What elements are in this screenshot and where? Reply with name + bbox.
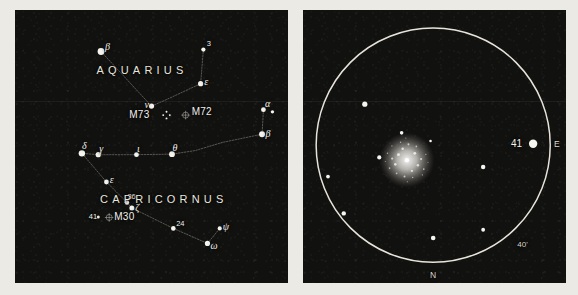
star-label-star-3-aquarii: 3: [207, 40, 211, 48]
asterism-line-aquarius-beta-nu: [101, 51, 152, 106]
field-star: [431, 236, 436, 241]
asterism-line-capricornus-alpha-beta: [262, 110, 263, 135]
star-label-epsilon-aquarii: ε: [204, 77, 208, 87]
star-label-gamma-capricorni: γ: [99, 144, 103, 154]
finder-chart-graphics: [15, 10, 288, 283]
field-star: [400, 131, 404, 135]
field-star: [326, 175, 330, 179]
star-label-alpha-capricorni: α: [265, 99, 270, 109]
constellation-name-capricornus: CAPRICORNUS: [100, 194, 228, 205]
north-marker: N: [430, 271, 436, 280]
star-beta-aquarii: [98, 48, 105, 55]
star-delta-capricorni: [79, 150, 85, 156]
dso-label-m30: M30: [114, 212, 134, 222]
telescopic-field-panel: 41EN40': [303, 10, 566, 283]
globular-cluster-icon-m72: [181, 111, 190, 120]
star-nu-aquarii: [149, 103, 154, 108]
figure-plate: β3εναβδγιθε36ζ24ψω41M73M72M30AQUARIUSCAP…: [0, 0, 578, 295]
dso-label-m73: M73: [129, 110, 149, 120]
star-label-star-24-capricorni: 24: [176, 220, 184, 228]
bright-star-41: [529, 140, 537, 148]
star-label-beta-aquarii: β: [105, 42, 110, 52]
star-label-psi-capricorni: ψ: [223, 222, 229, 232]
star-epsilon-aquarii: [198, 81, 203, 86]
star-alpha2-capricorni: [271, 110, 274, 113]
star-psi-capricorni: [218, 226, 222, 230]
asterism-line-capricornus-beta-theta: [172, 134, 262, 154]
field-star: [429, 140, 432, 143]
star-beta-capricorni: [259, 131, 265, 137]
asterism-line-capricornus-theta-delta: [82, 153, 172, 154]
constellation-name-aquarius: AQUARIUS: [96, 65, 187, 76]
star-label-star-41-capricorni: 41: [89, 213, 97, 221]
asterism-line-capricornus-zeta-omega: [132, 208, 208, 243]
globular-cluster-m30: [379, 133, 434, 188]
field-star: [342, 211, 346, 215]
finder-chart-panel: β3εναβδγιθε36ζ24ψω41M73M72M30AQUARIUSCAP…: [15, 10, 288, 283]
asterism-line-aquarius-3-epsilon: [201, 50, 204, 84]
star-label-omega-capricorni: ω: [210, 241, 217, 251]
asterism-line-aquarius-epsilon-nu: [152, 84, 201, 106]
star-star-41-capricorni: [97, 215, 100, 218]
bright-star-label-41: 41: [511, 139, 522, 149]
field-star: [481, 165, 485, 169]
dso-label-m72: M72: [192, 107, 212, 117]
star-epsilon-capricorni: [104, 180, 109, 185]
star-star-24-capricorni: [171, 226, 176, 231]
field-star: [481, 228, 485, 232]
star-label-epsilon-capricorni: ε: [110, 175, 114, 185]
star-zeta-capricorni: [129, 205, 134, 210]
field-scale-label: 40': [517, 241, 527, 249]
star-star-3-aquarii: [201, 47, 205, 51]
globular-cluster-icon-m30: [105, 213, 114, 222]
east-marker: E: [554, 140, 560, 149]
star-label-zeta-capricorni: ζ: [135, 203, 139, 213]
field-star: [377, 155, 381, 159]
field-star: [362, 102, 367, 107]
star-label-delta-capricorni: δ: [82, 141, 87, 151]
star-label-theta-capricorni: θ: [172, 143, 177, 153]
star-label-iota-capricorni: ι: [137, 144, 140, 154]
asterism-cross-icon-m73: [162, 111, 171, 120]
star-label-beta-capricorni: β: [266, 129, 271, 139]
